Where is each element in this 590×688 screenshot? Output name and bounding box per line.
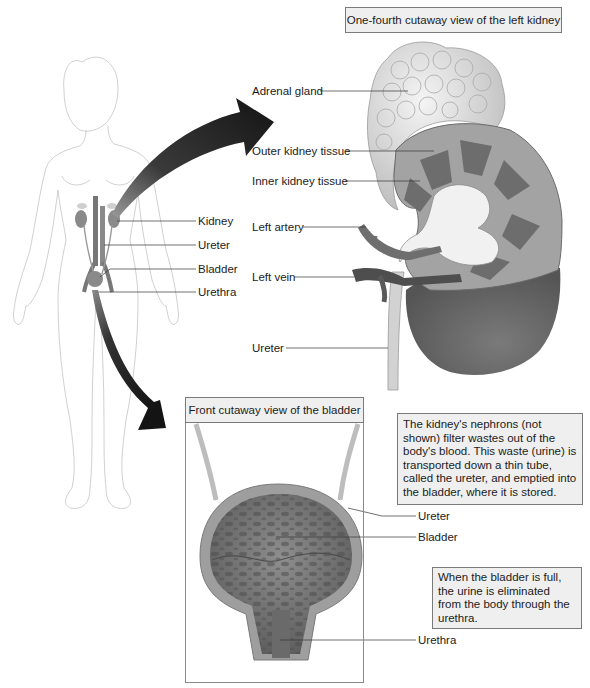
label-body-ureter: Ureter	[198, 238, 230, 252]
label-body-urethra: Urethra	[198, 285, 236, 299]
bladder-panel-frame	[185, 397, 364, 683]
label-outer-kidney-tissue: Outer kidney tissue	[252, 144, 350, 158]
arrow-to-bladder	[92, 290, 166, 430]
kidney-illustration	[352, 42, 562, 390]
nephron-callout: The kidney's nephrons (not shown) filter…	[397, 413, 583, 505]
label-left-artery: Left artery	[252, 220, 304, 234]
label-body-bladder: Bladder	[198, 262, 238, 276]
label-adrenal-gland: Adrenal gland	[252, 84, 323, 98]
label-bladder-ureter: Ureter	[418, 509, 450, 523]
label-inner-kidney-tissue: Inner kidney tissue	[252, 174, 348, 188]
body-urinary-system	[75, 196, 120, 292]
bladder-panel-title: Front cutaway view of the bladder	[185, 397, 364, 423]
label-bladder-urethra: Urethra	[418, 633, 456, 647]
urethra-callout: When the bladder is full, the urine is e…	[432, 567, 582, 629]
label-body-kidney: Kidney	[198, 214, 233, 228]
arrow-to-kidney	[112, 98, 274, 218]
label-left-vein: Left vein	[252, 270, 295, 284]
label-kidney-ureter: Ureter	[252, 341, 284, 355]
kidney-panel-title: One-fourth cutaway view of the left kidn…	[345, 7, 562, 33]
label-bladder-bladder: Bladder	[418, 530, 458, 544]
